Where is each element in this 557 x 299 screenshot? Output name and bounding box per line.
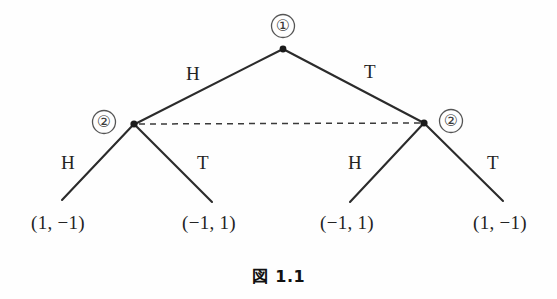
game-tree-svg — [0, 0, 557, 299]
action-label-right-h: H — [348, 153, 362, 172]
figure-container: ① ② ② H T H T H T (1, −1) (−1, 1) (−1, 1… — [0, 0, 557, 299]
information-set-dashed-line — [139, 123, 420, 124]
node-dot-player2-left — [130, 120, 137, 127]
node-dot-player2-right — [420, 119, 427, 126]
player-label-root: ① — [276, 18, 290, 34]
node-dot-root — [280, 46, 287, 53]
figure-caption-number: 1.1 — [275, 267, 305, 286]
payoff-label-leaf-2: (−1, 1) — [182, 213, 236, 232]
player-label-player2-left: ② — [97, 114, 111, 130]
action-label-root-h: H — [186, 64, 200, 83]
action-label-right-t: T — [487, 153, 499, 172]
action-label-left-h: H — [61, 153, 75, 172]
payoff-label-leaf-4: (1, −1) — [473, 213, 527, 232]
action-label-root-t: T — [364, 62, 376, 81]
player-label-player2-right: ② — [444, 113, 458, 129]
payoff-label-leaf-3: (−1, 1) — [320, 213, 374, 232]
payoff-label-leaf-1: (1, −1) — [31, 213, 85, 232]
action-label-left-t: T — [197, 153, 209, 172]
edge-root-right — [283, 49, 424, 123]
figure-caption-symbol: 図 — [252, 267, 269, 286]
figure-caption: 図1.1 — [0, 263, 557, 287]
edge-root-left — [135, 49, 283, 124]
